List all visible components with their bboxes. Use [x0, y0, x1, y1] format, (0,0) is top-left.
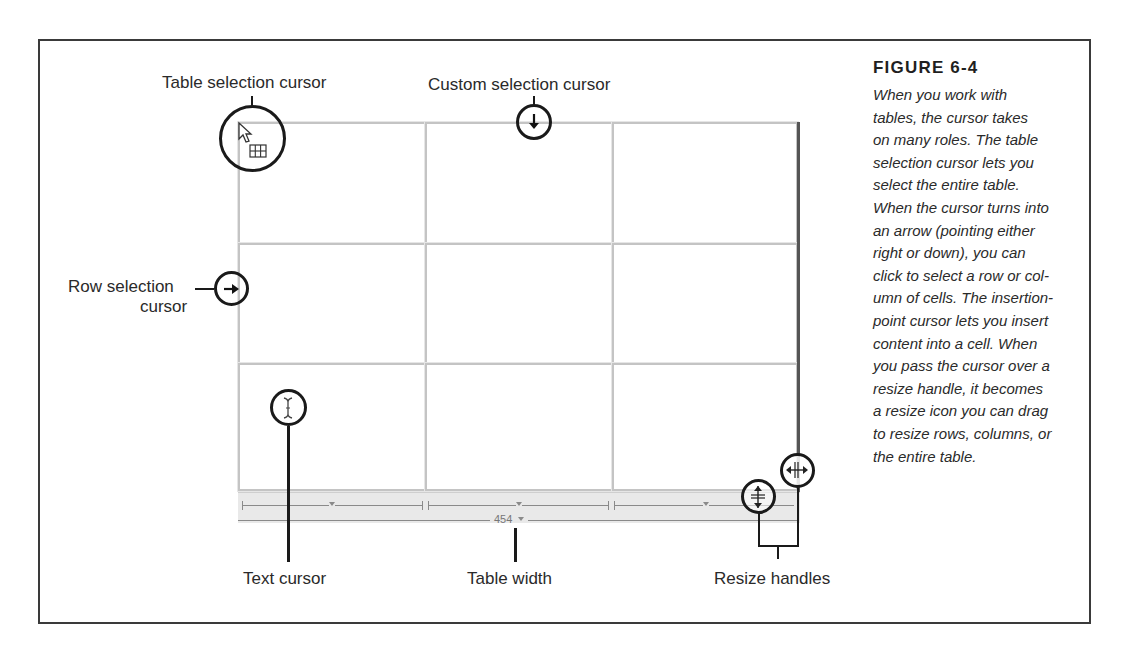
caption-line: a resize icon you can drag — [873, 400, 1073, 423]
table-cell-r2c1[interactable] — [238, 243, 426, 364]
column-1-width-menu-arrow-icon[interactable] — [329, 502, 335, 506]
caption-line: point cursor lets you insert — [873, 310, 1073, 333]
callout-resize-handles: Resize handles — [714, 569, 830, 589]
callout-leader-line — [287, 426, 290, 562]
callout-row-selection-cursor-line2: cursor — [140, 297, 187, 317]
table-width-menu-arrow-icon[interactable] — [518, 517, 524, 521]
column-3-width-menu-arrow-icon[interactable] — [703, 502, 709, 506]
callout-table-selection-cursor: Table selection cursor — [162, 73, 326, 93]
table-cell-r2c2[interactable] — [425, 243, 613, 364]
caption-line: When you work with — [873, 84, 1073, 107]
caption-line: the entire table. — [873, 446, 1073, 469]
caption-line: you pass the cursor over a — [873, 355, 1073, 378]
callout-custom-selection-cursor: Custom selection cursor — [428, 75, 610, 95]
caption-line: right or down), you can — [873, 242, 1073, 265]
caption-line: resize handle, it becomes — [873, 378, 1073, 401]
callout-bracket-right — [797, 488, 799, 547]
table-cell-r3c2[interactable] — [425, 363, 613, 491]
callout-bracket-left — [758, 514, 760, 547]
table-width-bar[interactable]: 454 — [238, 492, 800, 523]
caption-line: on many roles. The table — [873, 129, 1073, 152]
table-cell-r1c3[interactable] — [612, 122, 798, 244]
callout-table-width: Table width — [467, 569, 552, 589]
figure-title: FIGURE 6-4 — [873, 58, 1073, 78]
caption-line: content into a cell. When — [873, 333, 1073, 356]
column-select-down-arrow-icon — [526, 112, 542, 132]
table-cell-r1c2[interactable] — [425, 122, 613, 244]
callout-text-cursor: Text cursor — [243, 569, 326, 589]
column-width-tick — [608, 501, 609, 510]
table-selection-cursor-icon — [237, 121, 273, 159]
row-resize-cursor-icon — [749, 484, 767, 510]
table-width-line-left — [238, 520, 490, 521]
callout-row-selection-cursor: Row selection — [68, 277, 174, 297]
table-cell-r3c1[interactable] — [238, 363, 426, 491]
row-select-right-arrow-icon — [222, 281, 242, 297]
column-resize-cursor-icon — [784, 460, 810, 480]
caption-line: umn of cells. The insertion- — [873, 287, 1073, 310]
caption-line: select the entire table. — [873, 174, 1073, 197]
callout-leader-line — [195, 288, 214, 290]
column-width-tick — [422, 501, 423, 510]
text-insertion-cursor-icon — [280, 396, 296, 420]
table-cell-r2c3[interactable] — [612, 243, 798, 364]
caption-line: to resize rows, columns, or — [873, 423, 1073, 446]
caption-line: tables, the cursor takes — [873, 107, 1073, 130]
caption-line: selection cursor lets you — [873, 152, 1073, 175]
figure-caption: FIGURE 6-4 When you work with tables, th… — [873, 58, 1073, 468]
callout-leader-line — [514, 528, 517, 562]
table-cell-r3c3[interactable] — [612, 363, 798, 491]
caption-line: When the cursor turns into — [873, 197, 1073, 220]
column-2-width-menu-arrow-icon[interactable] — [516, 502, 522, 506]
caption-line: click to select a row or col- — [873, 265, 1073, 288]
table-width-value: 454 — [494, 513, 512, 525]
caption-line: an arrow (pointing either — [873, 220, 1073, 243]
callout-leader-line — [777, 547, 779, 559]
figure-caption-body: When you work with tables, the cursor ta… — [873, 84, 1073, 468]
